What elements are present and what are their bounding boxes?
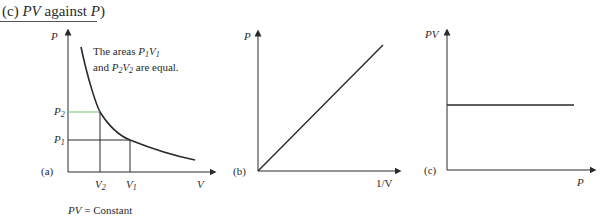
caption-pv: PV — [68, 204, 81, 216]
graph-b-y-label: P — [244, 30, 251, 42]
p1-sub: 1 — [61, 138, 65, 147]
graph-a-p2-label: P2 — [54, 105, 65, 121]
annotation-text-2: are equal. — [136, 61, 179, 73]
annotation-v1: V — [149, 45, 156, 57]
graph-c — [447, 32, 593, 170]
annotation-v2-sub: 2 — [129, 66, 133, 75]
graph-a-panel-label: (a) — [41, 165, 53, 177]
graph-a-annotation: The areas P1V1 and P2V2 are equal. — [93, 45, 179, 77]
v1-letter: V — [126, 178, 133, 190]
graph-a-p1-label: P1 — [54, 133, 65, 149]
p1-letter: P — [54, 133, 61, 145]
annotation-and: and — [93, 61, 109, 73]
p2-letter: P — [54, 105, 61, 117]
graph-c-panel-label: (c) — [424, 164, 436, 176]
annotation-text-1: The areas — [93, 45, 135, 57]
graph-a-caption: PV = Constant — [68, 204, 132, 216]
v2-sub: 2 — [102, 183, 106, 192]
p2-sub: 2 — [61, 110, 65, 119]
v1-sub: 1 — [133, 183, 137, 192]
graph-b-line — [258, 45, 383, 171]
graph-b — [258, 33, 398, 171]
graph-c-y-label: PV — [425, 28, 438, 40]
graph-b-x-label: 1/V — [376, 177, 393, 189]
annotation-p1: P — [138, 45, 145, 57]
graph-a-v2-label: V2 — [95, 178, 106, 194]
one-over-v: 1/V — [376, 177, 393, 189]
graph-a-y-label: P — [51, 30, 58, 42]
v2-letter: V — [95, 178, 102, 190]
caption-rest: = Constant — [84, 204, 132, 216]
graph-a-x-label: V — [197, 178, 204, 190]
graph-a-v1-label: V1 — [126, 178, 137, 194]
graph-c-x-label: P — [577, 176, 584, 188]
graphs-canvas — [0, 0, 601, 218]
graph-b-panel-label: (b) — [233, 165, 246, 177]
annotation-v1-sub: 1 — [156, 50, 160, 59]
